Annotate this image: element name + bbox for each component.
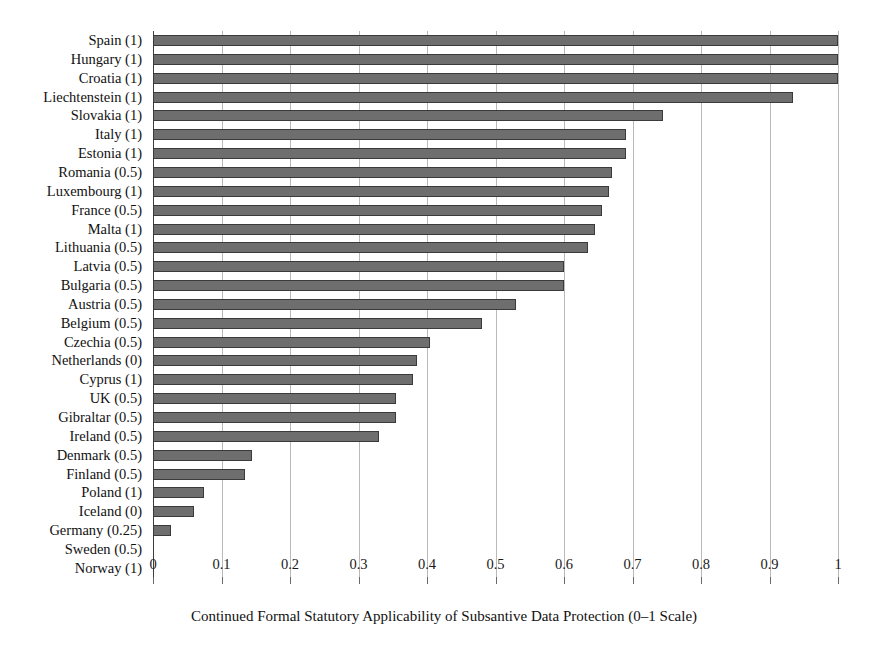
bar-row [153, 502, 838, 521]
x-axis-tick [496, 577, 497, 584]
bar-row [153, 163, 838, 182]
bar-row [153, 144, 838, 163]
x-tick-label: 0.9 [760, 556, 778, 573]
category-label: Croatia (1) [0, 69, 148, 88]
category-label: UK (0.5) [0, 389, 148, 408]
x-tick-label: 0.8 [692, 556, 710, 573]
bar-row [153, 483, 838, 502]
bar-row [153, 88, 838, 107]
bar-row [153, 50, 838, 69]
category-label: Sweden (0.5) [0, 540, 148, 559]
bar-chart: Spain (1)Hungary (1)Croatia (1)Liechtens… [0, 0, 888, 650]
category-label: Bulgaria (0.5) [0, 276, 148, 295]
x-axis-tick [633, 577, 634, 584]
category-label: Cyprus (1) [0, 370, 148, 389]
x-axis-tick [290, 577, 291, 584]
category-label: Netherlands (0) [0, 351, 148, 370]
gridline [838, 31, 839, 577]
x-tick-label: 1 [834, 556, 841, 573]
bar [153, 129, 626, 140]
bar-row [153, 257, 838, 276]
bar [153, 261, 564, 272]
category-label: Slovakia (1) [0, 106, 148, 125]
category-label: Germany (0.25) [0, 521, 148, 540]
bar [153, 318, 482, 329]
x-tick-label: 0.1 [212, 556, 230, 573]
category-label: Spain (1) [0, 31, 148, 50]
bar [153, 92, 793, 103]
bar-row [153, 333, 838, 352]
category-label: Malta (1) [0, 220, 148, 239]
category-label: Finland (0.5) [0, 465, 148, 484]
category-label: Italy (1) [0, 125, 148, 144]
category-label: Ireland (0.5) [0, 427, 148, 446]
bar [153, 431, 379, 442]
bar-row [153, 465, 838, 484]
bar [153, 167, 612, 178]
x-axis-tick [427, 577, 428, 584]
category-label: Liechtenstein (1) [0, 88, 148, 107]
bar [153, 487, 204, 498]
bar-row [153, 201, 838, 220]
category-label: Belgium (0.5) [0, 314, 148, 333]
bar-row [153, 220, 838, 239]
category-label: Poland (1) [0, 483, 148, 502]
plot-area [153, 31, 838, 577]
x-axis-tick [222, 577, 223, 584]
x-axis-tick [153, 577, 154, 584]
bar-row [153, 446, 838, 465]
bar-row [153, 106, 838, 125]
bar [153, 224, 595, 235]
category-label: Luxembourg (1) [0, 182, 148, 201]
bar [153, 54, 838, 65]
category-label: Estonia (1) [0, 144, 148, 163]
bar [153, 393, 396, 404]
bar-row [153, 389, 838, 408]
bar-row [153, 276, 838, 295]
x-tick-label: 0.5 [486, 556, 504, 573]
bar-row [153, 238, 838, 257]
bar-row [153, 182, 838, 201]
category-label: Lithuania (0.5) [0, 238, 148, 257]
bar-row [153, 31, 838, 50]
bar-row [153, 69, 838, 88]
x-axis-tick [359, 577, 360, 584]
bar-row [153, 295, 838, 314]
category-label: France (0.5) [0, 201, 148, 220]
category-label: Denmark (0.5) [0, 446, 148, 465]
bar [153, 186, 609, 197]
bar [153, 205, 602, 216]
bar [153, 355, 417, 366]
x-axis-tick [838, 577, 839, 584]
bar [153, 35, 838, 46]
bar [153, 299, 516, 310]
x-axis-tick [770, 577, 771, 584]
bar-row [153, 125, 838, 144]
category-label: Romania (0.5) [0, 163, 148, 182]
x-axis-tick [564, 577, 565, 584]
x-tick-label: 0.7 [623, 556, 641, 573]
bar [153, 412, 396, 423]
category-label: Czechia (0.5) [0, 333, 148, 352]
x-tick-label: 0 [149, 556, 156, 573]
bar-row [153, 314, 838, 333]
category-label: Gibraltar (0.5) [0, 408, 148, 427]
x-tick-label: 0.4 [418, 556, 436, 573]
bar [153, 73, 838, 84]
bar [153, 374, 413, 385]
bar-row [153, 408, 838, 427]
bar-row [153, 351, 838, 370]
bar [153, 148, 626, 159]
category-label: Norway (1) [0, 559, 148, 578]
x-tick-label: 0.2 [281, 556, 299, 573]
bar-row [153, 370, 838, 389]
bar-row [153, 521, 838, 540]
bar [153, 506, 194, 517]
category-label: Austria (0.5) [0, 295, 148, 314]
bar-row [153, 427, 838, 446]
category-label: Iceland (0) [0, 502, 148, 521]
x-tick-label: 0.6 [555, 556, 573, 573]
bar [153, 337, 430, 348]
category-label: Hungary (1) [0, 50, 148, 69]
bar [153, 450, 252, 461]
